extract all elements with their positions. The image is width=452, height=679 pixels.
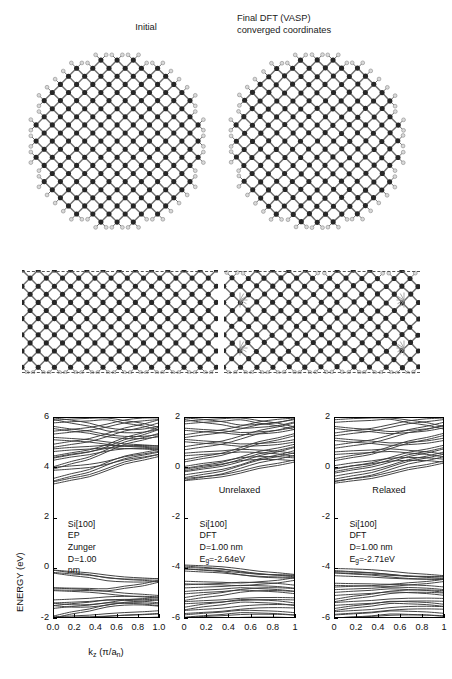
y-axis-tick-label: -4: [162, 561, 180, 571]
initial-nanowire-side-view: [22, 270, 218, 374]
y-axis-tick-label: 4: [31, 461, 49, 471]
y-axis-tick-mark: [334, 417, 338, 418]
y-axis-tick-label: 0: [312, 461, 330, 471]
heading-final-dft: Final DFT (VASP) converged coordinates: [237, 13, 407, 36]
y-axis-tick-mark: [53, 417, 57, 418]
x-axis-tick-mark: [334, 614, 335, 618]
y-axis-tick-mark: [184, 467, 188, 468]
y-axis-tick-label: -2: [312, 511, 330, 521]
x-axis-tick-mark: [251, 614, 252, 618]
y-axis-tick-mark: [334, 568, 338, 569]
plot-annotation: Si[100] DFTD=1.00 nmEg=-2.71eV: [349, 519, 395, 567]
y-axis-tick-label: 2: [162, 411, 180, 421]
y-axis-tick-label: 2: [31, 511, 49, 521]
y-axis-tick-mark: [184, 518, 188, 519]
x-axis-tick-label: 1: [430, 622, 452, 632]
x-axis-tick-mark: [228, 614, 229, 618]
y-axis-tick-label: -2: [31, 612, 49, 622]
y-axis-tick-mark: [184, 618, 188, 619]
y-axis-tick-label: -2: [162, 511, 180, 521]
x-axis-tick-label: 1: [281, 622, 309, 632]
annotation-line: Si[100] DFT: [349, 519, 395, 542]
annotation-line: Zunger: [68, 542, 97, 554]
y-axis-tick-mark: [334, 467, 338, 468]
panel-caption: Unrelaxed: [184, 485, 295, 495]
initial-nanocrystal-top-view: [28, 52, 206, 230]
relaxed-nanowire-side-view: [224, 270, 420, 374]
x-axis-tick-mark: [138, 614, 139, 618]
y-axis-tick-mark: [334, 618, 338, 619]
y-axis-tick-mark: [184, 568, 188, 569]
annotation-band-gap: Eg=-2.71eV: [349, 554, 395, 567]
annotation-line: D=1.00 nm: [349, 542, 395, 554]
x-axis-tick-mark: [74, 614, 75, 618]
boundary-dashed-line-bottom: [22, 372, 218, 373]
y-axis-tick-label: -6: [312, 612, 330, 622]
y-axis-tick-label: 2: [312, 411, 330, 421]
x-axis-tick-mark: [184, 614, 185, 618]
y-axis-tick-label: 0: [162, 461, 180, 471]
x-axis-label: kz (π/an): [33, 646, 179, 658]
boundary-dashed-line-top: [22, 271, 218, 272]
boundary-dashed-line-top: [224, 271, 420, 272]
annotation-band-gap: Eg=-2.64eV: [200, 554, 246, 567]
y-axis-tick-mark: [53, 568, 57, 569]
x-axis-tick-mark: [95, 614, 96, 618]
y-axis-tick-label: 0: [31, 561, 49, 571]
x-axis-tick-mark: [422, 614, 423, 618]
x-axis-tick-mark: [444, 614, 445, 618]
y-axis-tick-label: -6: [162, 612, 180, 622]
x-axis-tick-mark: [117, 614, 118, 618]
plot-annotation: Si[100] EPZungerD=1.00 nm: [68, 519, 97, 577]
heading-initial: Initial: [86, 22, 206, 34]
boundary-dashed-line-bottom: [224, 372, 420, 373]
y-axis-tick-label: 6: [31, 411, 49, 421]
x-axis-tick-mark: [295, 614, 296, 618]
y-axis-tick-mark: [53, 618, 57, 619]
y-axis-tick-mark: [53, 467, 57, 468]
y-axis-tick-mark: [334, 518, 338, 519]
figure-root: Initial Final DFT (VASP) converged coord…: [0, 0, 452, 679]
y-axis-tick-mark: [53, 518, 57, 519]
x-axis-tick-mark: [53, 614, 54, 618]
x-axis-tick-label: 1.0: [145, 622, 173, 632]
x-axis-tick-mark: [400, 614, 401, 618]
y-axis-tick-label: -4: [312, 561, 330, 571]
x-axis-tick-mark: [206, 614, 207, 618]
annotation-line: Si[100] DFT: [200, 519, 246, 542]
panel-caption: Relaxed: [334, 485, 444, 495]
x-axis-tick-mark: [378, 614, 379, 618]
annotation-line: Si[100] EP: [68, 519, 97, 542]
annotation-line: D=1.00 nm: [200, 542, 246, 554]
x-axis-tick-mark: [273, 614, 274, 618]
plot-frame: [184, 417, 295, 618]
plot-frame: [53, 417, 159, 618]
relaxed-nanocrystal-top-view: [228, 52, 406, 230]
y-axis-tick-mark: [184, 417, 188, 418]
x-axis-tick-mark: [159, 614, 160, 618]
plot-frame: [334, 417, 444, 618]
plot-annotation: Si[100] DFTD=1.00 nmEg=-2.64eV: [200, 519, 246, 567]
annotation-line: D=1.00 nm: [68, 554, 97, 577]
y-axis-label: ENERGY (eV): [14, 552, 25, 612]
x-axis-tick-mark: [356, 614, 357, 618]
